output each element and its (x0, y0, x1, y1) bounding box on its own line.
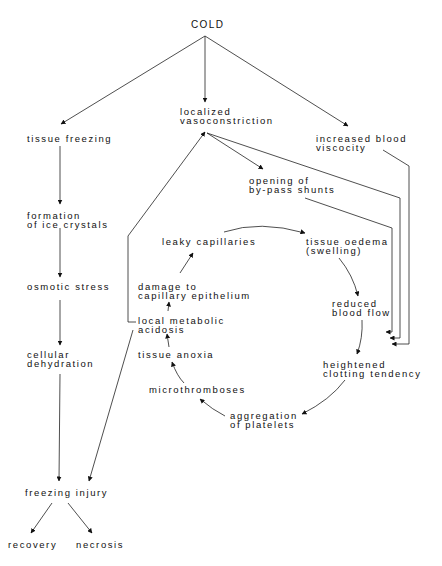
node-reduced-blood-flow: reduced blood flow (332, 299, 391, 317)
node-leaky-capillaries: leaky capillaries (162, 237, 256, 246)
node-label: freezing injury (25, 488, 108, 497)
node-freezing-injury: freezing injury (25, 488, 108, 497)
node-label: osmotic stress (27, 282, 110, 291)
node-localized-vasoconstriction: localized vasoconstriction (180, 107, 274, 125)
cold-injury-flow-diagram: COLD tissue freezing localized vasoconst… (0, 0, 442, 566)
node-microthromboses: microthromboses (149, 385, 246, 394)
node-label: (swelling) (306, 246, 389, 255)
node-aggregation-of-platelets: aggregation of platelets (230, 411, 298, 429)
node-cold: COLD (191, 20, 224, 29)
node-label: viscocity (316, 143, 407, 152)
node-increased-blood-viscocity: increased blood viscocity (316, 134, 407, 152)
node-label: of ice crystals (27, 220, 109, 229)
node-label: COLD (191, 20, 224, 29)
node-label: necrosis (76, 540, 124, 549)
node-tissue-freezing: tissue freezing (27, 134, 112, 143)
node-damage-to-capillary-epithelium: damage to capillary epithelium (138, 282, 251, 300)
node-label: tissue freezing (27, 134, 112, 143)
node-tissue-oedema: tissue oedema (swelling) (306, 237, 389, 255)
node-label: by-pass shunts (249, 185, 335, 194)
node-label: dehydration (27, 359, 94, 368)
node-label: acidosis (138, 325, 225, 334)
node-heightened-clotting-tendency: heightened clotting tendency (323, 360, 422, 378)
node-cellular-dehydration: cellular dehydration (27, 350, 94, 368)
node-label: vasoconstriction (180, 116, 274, 125)
node-label: blood flow (332, 308, 391, 317)
node-opening-of-bypass-shunts: opening of by-pass shunts (249, 176, 335, 194)
node-recovery: recovery (8, 540, 57, 549)
node-label: microthromboses (149, 385, 246, 394)
node-tissue-anoxia: tissue anoxia (138, 350, 214, 359)
node-necrosis: necrosis (76, 540, 124, 549)
node-label: capillary epithelium (138, 291, 251, 300)
node-label: clotting tendency (323, 369, 422, 378)
node-formation-of-ice-crystals: formation of ice crystals (27, 211, 109, 229)
node-label: tissue anoxia (138, 350, 214, 359)
node-osmotic-stress: osmotic stress (27, 282, 110, 291)
node-label: recovery (8, 540, 57, 549)
node-local-metabolic-acidosis: local metabolic acidosis (138, 316, 225, 334)
node-label: of platelets (230, 420, 298, 429)
node-label: leaky capillaries (162, 237, 256, 246)
